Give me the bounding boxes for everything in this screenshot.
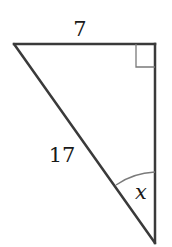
right-angle-marker (136, 44, 155, 67)
hypotenuse-label-17: 17 (49, 143, 76, 167)
triangle-diagram: 7 17 x (0, 0, 172, 247)
side-label-7: 7 (73, 17, 86, 41)
hypotenuse (14, 44, 155, 243)
angle-label-x: x (135, 180, 147, 204)
